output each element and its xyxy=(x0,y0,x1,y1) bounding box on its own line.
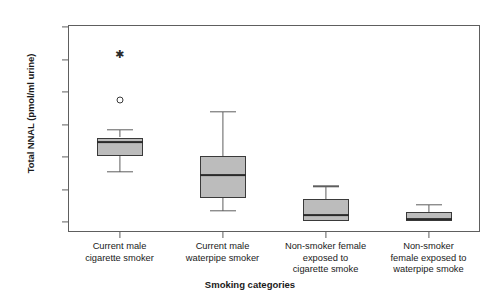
median-line xyxy=(406,218,452,220)
box-iqr xyxy=(200,156,246,198)
x-category-label-line: cigarette smoke xyxy=(270,264,382,276)
whisker-cap-lower xyxy=(210,210,236,211)
x-tick-mark xyxy=(325,232,326,238)
outlier-point xyxy=(116,96,123,103)
x-category-label-line: Non-smoker female xyxy=(270,241,382,253)
x-category-label-line: exposed to xyxy=(270,253,382,265)
y-tick-mark xyxy=(62,221,68,222)
median-line xyxy=(303,214,349,216)
x-tick-mark xyxy=(428,232,429,238)
whisker-cap-upper xyxy=(313,186,339,187)
whisker-lower xyxy=(222,198,223,211)
boxplot-figure: Total NNAL (pmol/ml urine) 0.00.51.01.52… xyxy=(0,0,500,298)
whisker-cap-upper xyxy=(416,204,442,205)
x-category-label: Non-smokerfemale exposed towaterpipe smo… xyxy=(373,241,485,276)
whisker-cap-upper xyxy=(210,111,236,112)
y-tick-mark xyxy=(62,156,68,157)
y-tick-mark xyxy=(62,26,68,27)
y-tick-mark xyxy=(62,189,68,190)
extreme-outlier-point: ✱ xyxy=(115,48,124,59)
box-iqr xyxy=(303,199,349,220)
x-category-label: Current malewaterpipe smoker xyxy=(167,241,279,264)
median-line xyxy=(200,174,246,176)
x-tick-mark xyxy=(119,232,120,238)
y-tick-mark xyxy=(62,91,68,92)
x-category-label: Non-smoker femaleexposed tocigarette smo… xyxy=(270,241,382,276)
whisker-lower xyxy=(119,156,120,172)
whisker-upper xyxy=(325,186,326,199)
x-tick-mark xyxy=(222,232,223,238)
x-category-label-line: female exposed to xyxy=(373,253,485,265)
median-line xyxy=(97,141,143,143)
y-axis-title: Total NNAL (pmol/ml urine) xyxy=(25,19,36,209)
y-tick-mark xyxy=(62,124,68,125)
whisker-cap-upper xyxy=(107,129,133,130)
x-category-label-line: Current male xyxy=(64,241,176,253)
x-category-label: Current malecigarette smoker xyxy=(64,241,176,264)
whisker-upper xyxy=(119,130,120,138)
whisker-upper xyxy=(222,112,223,156)
x-category-label-line: Non-smoker xyxy=(373,241,485,253)
x-category-label-line: Current male xyxy=(167,241,279,253)
x-axis-title: Smoking categories xyxy=(0,279,500,290)
x-category-label-line: cigarette smoker xyxy=(64,253,176,265)
x-category-label-line: waterpipe smoke xyxy=(373,264,485,276)
x-category-label-line: waterpipe smoker xyxy=(167,253,279,265)
whisker-upper xyxy=(428,205,429,212)
whisker-cap-lower xyxy=(107,171,133,172)
y-tick-mark xyxy=(62,59,68,60)
